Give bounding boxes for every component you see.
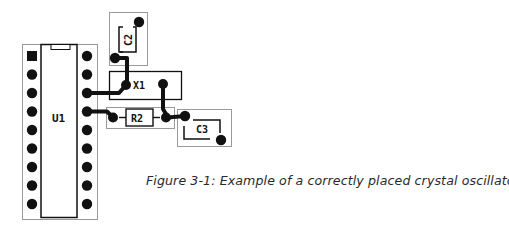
x1-label: X1	[133, 80, 145, 91]
u1-label: U1	[52, 112, 66, 125]
c3-label: C3	[196, 124, 208, 135]
r2-label: R2	[131, 113, 143, 124]
figure-caption: Figure 3-1: Example of a correctly place…	[146, 173, 506, 188]
c2-label: C2	[123, 34, 134, 46]
pcb-diagram: U1 C2 X1 R2	[0, 0, 509, 229]
pcb-layout-figure: U1 C2 X1 R2	[0, 0, 509, 229]
x1-footprint: X1	[110, 72, 182, 100]
u1-footprint: U1	[23, 45, 98, 220]
